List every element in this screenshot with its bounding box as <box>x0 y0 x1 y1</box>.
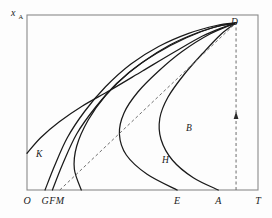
x-tick-O: O <box>23 195 30 206</box>
x-axis-tick-labels: OGFMEAT <box>23 195 262 206</box>
x-tick-E: E <box>173 195 180 206</box>
figure-container: x A OGFMEAT KHBD <box>0 0 272 218</box>
x-tick-T: T <box>255 195 262 206</box>
x-tick-A: A <box>214 195 222 206</box>
up-arrow-icon <box>234 112 239 120</box>
annotation-group <box>60 23 239 190</box>
curve-K <box>27 23 236 153</box>
y-axis-label-subscript: A <box>19 13 24 20</box>
y-axis-label: x A <box>10 7 24 20</box>
x-tick-G: G <box>41 195 48 206</box>
curve-label-D: D <box>230 17 238 27</box>
curve-label-H: H <box>161 155 170 165</box>
diagonal-dashed-line-M-to-D <box>60 23 236 190</box>
curve-group <box>27 23 236 190</box>
curve-label-group: KHBD <box>35 17 238 165</box>
curve-label-K: K <box>35 149 43 159</box>
curve-curve-A <box>159 23 236 190</box>
curve-label-B: B <box>186 123 192 133</box>
plot-frame <box>27 15 258 190</box>
x-tick-M: M <box>55 195 65 206</box>
xa-diagram: x A OGFMEAT KHBD <box>0 0 272 218</box>
y-axis-label-main: x <box>10 7 16 18</box>
